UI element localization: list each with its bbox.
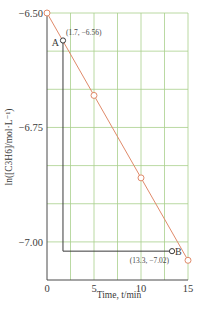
data-point-marker xyxy=(44,10,50,16)
point-b-coords: (13.3, −7.02) xyxy=(130,256,170,265)
x-tick-label: 15 xyxy=(183,283,194,294)
data-point-marker xyxy=(91,92,97,98)
x-tick-label: 0 xyxy=(44,283,49,294)
y-tick-label: −6.75 xyxy=(19,122,43,133)
point-a-label: A xyxy=(52,37,60,48)
point-b-marker xyxy=(169,249,174,254)
point-annotations: A(1.7, −6.56)B(13.3, −7.02) xyxy=(52,28,182,265)
kinetics-chart: 051015−6.50−6.75−7.00 A(1.7, −6.56)B(13.… xyxy=(0,0,202,314)
x-axis-label: Time, t/min xyxy=(97,290,142,300)
y-axis-label: ln([C3H6]/mol·L⁻¹) xyxy=(4,109,15,186)
data-point-marker xyxy=(185,257,191,263)
data-point-marker xyxy=(138,175,144,181)
point-b-label: B xyxy=(175,246,182,257)
grid-lines xyxy=(47,13,188,280)
y-tick-label: −6.50 xyxy=(19,8,43,19)
point-a-coords: (1.7, −6.56) xyxy=(66,28,102,37)
point-a-marker xyxy=(60,38,65,43)
y-tick-label: −7.00 xyxy=(19,237,43,248)
